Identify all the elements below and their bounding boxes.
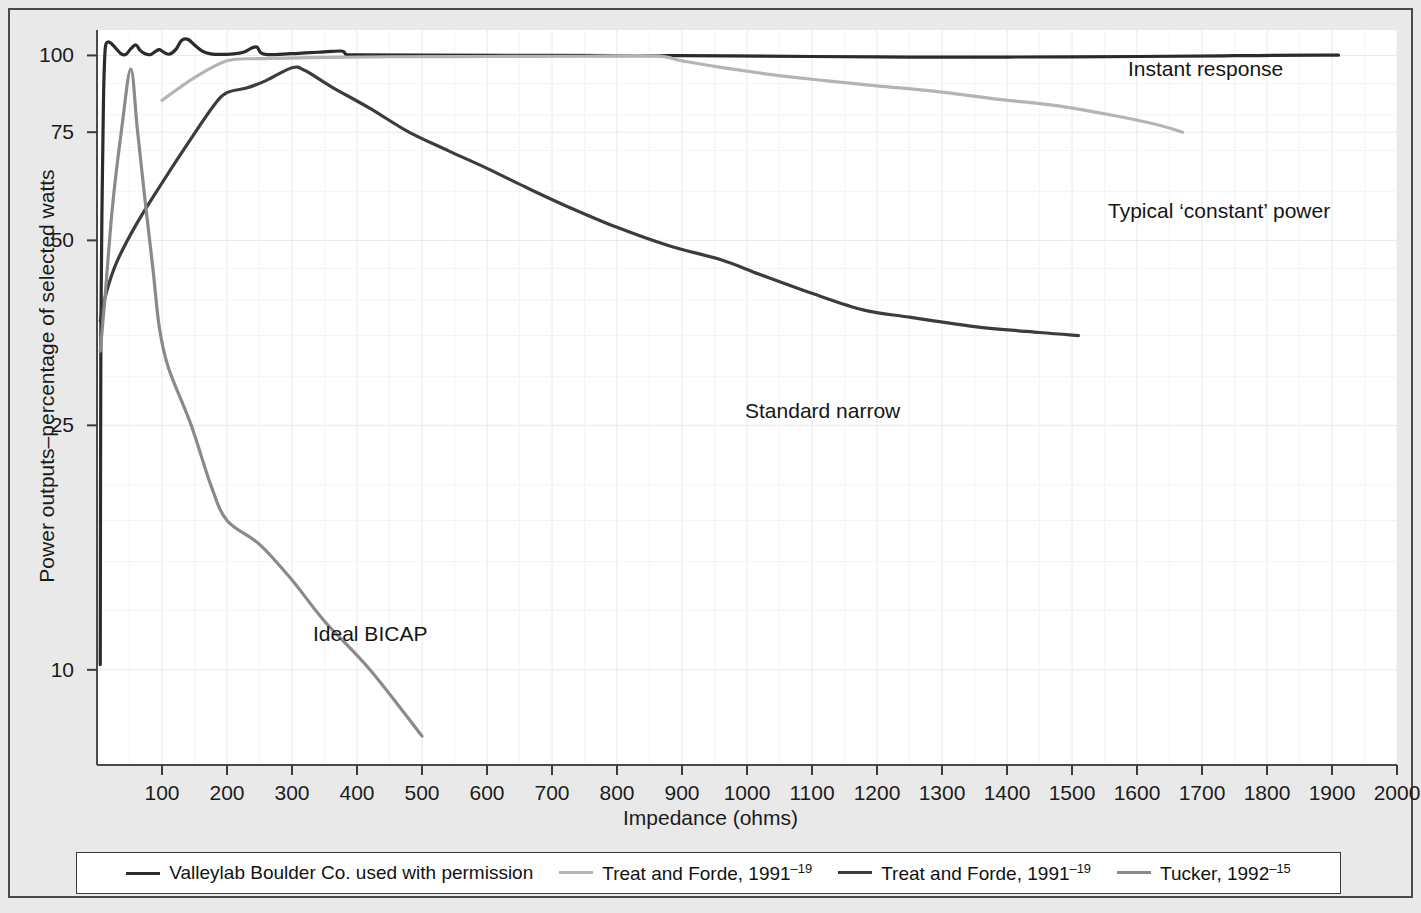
x-tick-label: 1600: [1114, 781, 1161, 805]
x-tick-label: 1000: [724, 781, 771, 805]
legend-line-swatch: [559, 871, 593, 874]
legend-item-label: Tucker, 1992–15: [1160, 861, 1291, 885]
legend-line-swatch: [126, 872, 160, 875]
legend-line-swatch: [838, 871, 872, 874]
legend-item-label: Valleylab Boulder Co. used with permissi…: [169, 862, 533, 884]
x-tick-label: 1700: [1179, 781, 1226, 805]
y-tick-label: 50: [18, 228, 74, 252]
y-tick-label: 75: [18, 120, 74, 144]
x-tick-label: 200: [209, 781, 244, 805]
x-tick-label: 1200: [854, 781, 901, 805]
x-tick-label: 1400: [984, 781, 1031, 805]
legend-item[interactable]: Valleylab Boulder Co. used with permissi…: [126, 862, 533, 884]
x-tick-label: 100: [144, 781, 179, 805]
y-tick-label: 100: [18, 43, 74, 67]
y-tick-label: 10: [18, 658, 74, 682]
x-tick-label: 300: [274, 781, 309, 805]
legend-item-label: Treat and Forde, 1991–19: [881, 861, 1091, 885]
x-tick-label: 1100: [789, 781, 834, 805]
x-tick-label: 1300: [919, 781, 966, 805]
legend-reference-superscript: –19: [1070, 861, 1092, 876]
x-tick-label: 800: [599, 781, 634, 805]
y-axis-title: Power outputs–percentage of selected wat…: [35, 96, 59, 656]
legend-reference-superscript: –15: [1269, 861, 1291, 876]
legend-item[interactable]: Tucker, 1992–15: [1117, 861, 1291, 885]
x-tick-label: 600: [469, 781, 504, 805]
legend-item[interactable]: Treat and Forde, 1991–19: [838, 861, 1091, 885]
x-tick-label: 1500: [1049, 781, 1096, 805]
figure-page: Power outputs–percentage of selected wat…: [0, 0, 1421, 913]
annotation-instant-response: Instant response: [1128, 57, 1283, 81]
x-axis-title: Impedance (ohms): [0, 806, 1421, 830]
y-tick-label: 25: [18, 413, 74, 437]
annotation-typical-constant-power: Typical ‘constant’ power: [1108, 199, 1330, 223]
annotation-standard-narrow: Standard narrow: [745, 399, 900, 423]
plot-area: [97, 30, 1397, 765]
legend-line-swatch: [1117, 871, 1151, 874]
x-tick-label: 900: [664, 781, 699, 805]
x-tick-label: 700: [534, 781, 569, 805]
legend-item-label: Treat and Forde, 1991–19: [602, 861, 812, 885]
x-tick-label: 500: [404, 781, 439, 805]
legend: Valleylab Boulder Co. used with permissi…: [76, 852, 1341, 894]
legend-item[interactable]: Treat and Forde, 1991–19: [559, 861, 812, 885]
annotation-ideal-bicap: Ideal BICAP: [313, 622, 427, 646]
x-tick-label: 1800: [1244, 781, 1291, 805]
x-tick-label: 2000: [1374, 781, 1421, 805]
x-tick-label: 400: [339, 781, 374, 805]
legend-reference-superscript: –19: [791, 861, 813, 876]
x-tick-label: 1900: [1309, 781, 1356, 805]
